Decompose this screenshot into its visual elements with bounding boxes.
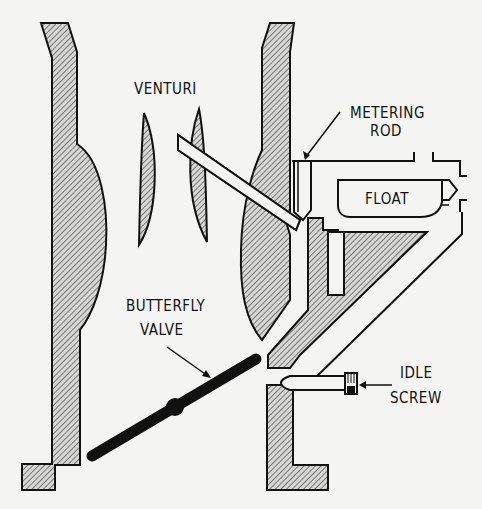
float-needle-valve	[442, 180, 457, 200]
float-bowl-right-lower	[460, 200, 467, 212]
butterfly-valve-label-line1: BUTTERFLY	[126, 297, 206, 315]
butterfly-valve[interactable]	[92, 359, 256, 456]
venturi-right-vane	[190, 109, 207, 242]
carburetor-diagram: VENTURI METERING ROD FLOAT BUTTERFLY VAL…	[0, 0, 482, 509]
idle-screw[interactable]	[281, 373, 357, 394]
metering-rod-label-line1: METERING	[350, 104, 425, 122]
idle-screw-label-line2: SCREW	[390, 389, 442, 407]
idle-screw-leader	[359, 381, 392, 389]
float-bowl-pocket	[328, 232, 344, 295]
venturi-left-vane	[139, 113, 155, 245]
left-throat-wall	[22, 23, 106, 490]
butterfly-valve-leader	[167, 347, 211, 378]
float-bowl-right	[433, 152, 467, 176]
metering-rod-leader	[303, 112, 340, 160]
idle-screw-label-line1: IDLE	[400, 364, 432, 382]
metering-rod[interactable]	[294, 161, 311, 220]
venturi-label: VENTURI	[134, 80, 197, 98]
metering-rod-label-line2: ROD	[370, 122, 402, 140]
float-label: FLOAT	[365, 190, 409, 208]
right-lower-wall	[267, 385, 328, 490]
right-throat-wall	[241, 23, 296, 340]
butterfly-valve-label-line2: VALVE	[140, 321, 184, 339]
float-bowl	[292, 152, 414, 161]
